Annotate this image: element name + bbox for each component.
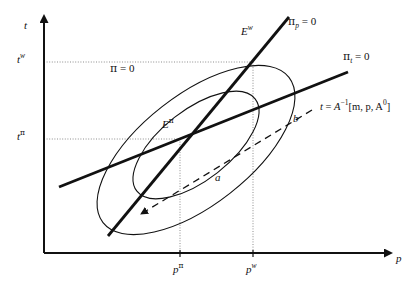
- pi-t-zero-line: [59, 72, 348, 187]
- equation-equals: =: [323, 101, 334, 112]
- tick-label-p-w: pw: [246, 262, 257, 275]
- iso-profit-contours: [69, 34, 323, 266]
- tick-label-t-pi-sup: π: [20, 128, 25, 137]
- equation-close: ]: [387, 101, 391, 112]
- axis-label-p: p: [396, 253, 402, 264]
- diagram-canvas: [0, 0, 420, 295]
- tick-label-t-w-sup: w: [20, 51, 25, 60]
- equation-exponent: −1: [341, 98, 349, 107]
- equilibrium-label-e-pi: Eπ: [162, 117, 174, 130]
- equation-args: [m, p, A: [349, 101, 383, 112]
- tick-label-p-pi: pπ: [173, 262, 183, 275]
- tick-label-p-w-sup: w: [252, 261, 257, 270]
- pi-p-zero-line: [108, 17, 289, 236]
- curve-label-pi-t-zero-rest: = 0: [352, 50, 369, 62]
- curve-label-pi-p-zero-rest: = 0: [299, 15, 316, 27]
- phase-diagram-figure: t p tw tπ pπ pw π = 0 πp = 0 πt = 0 t = …: [0, 0, 420, 295]
- annotation-label-b: b: [293, 113, 299, 124]
- tick-label-t-w: tw: [17, 52, 25, 65]
- equilibrium-label-e-pi-sup: π: [169, 116, 174, 125]
- curve-label-pi-zero-rest: = 0: [117, 62, 134, 74]
- equilibrium-label-e-pi-base: E: [162, 118, 169, 130]
- tick-label-t-pi: tπ: [17, 129, 25, 142]
- gridlines: [44, 62, 253, 253]
- curve-label-pi-t-zero: πt = 0: [343, 51, 370, 65]
- annotation-label-a: a: [215, 172, 221, 183]
- curve-label-pi-zero: π = 0: [110, 63, 134, 74]
- iso-profit-outer-ellipse: [69, 34, 323, 266]
- equilibrium-label-e-w-base: E: [241, 25, 248, 37]
- axis-label-t: t: [24, 20, 27, 31]
- equation-label: t = A−1[m, p, A0]: [320, 99, 390, 112]
- curve-label-pi-p-zero: πp = 0: [288, 16, 316, 30]
- axes: [44, 22, 385, 253]
- equilibrium-label-e-w: Ew: [241, 24, 253, 37]
- tick-label-p-pi-sup: π: [179, 261, 184, 270]
- equilibrium-label-e-w-sup: w: [248, 23, 253, 32]
